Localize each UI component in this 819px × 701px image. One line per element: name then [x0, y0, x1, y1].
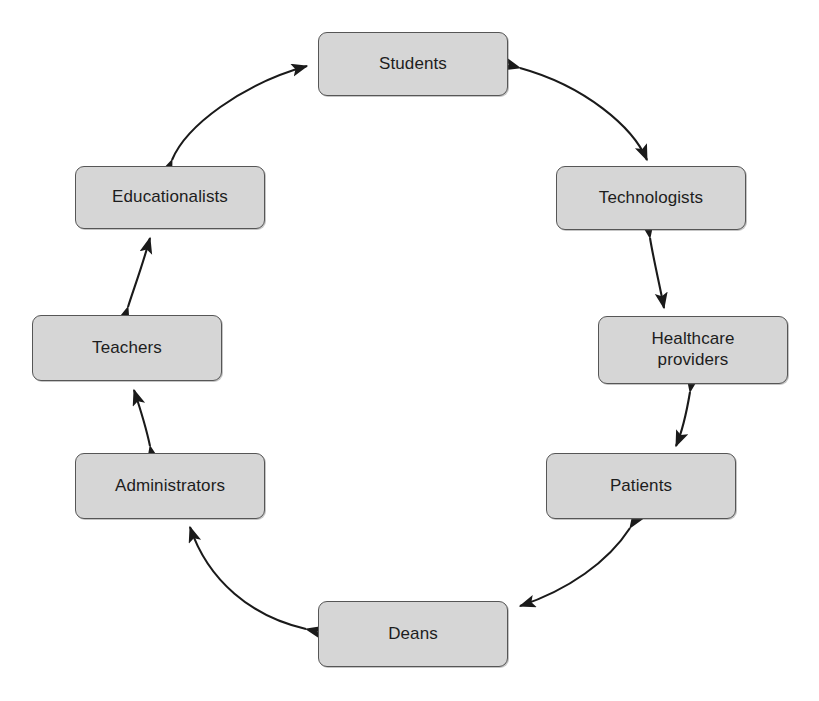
connector-students-technologists — [520, 68, 647, 160]
node-patients[interactable]: Patients — [546, 453, 736, 519]
node-label-healthcare-providers: Healthcare providers — [645, 329, 740, 370]
node-students[interactable]: Students — [318, 32, 508, 96]
connector-technologists-healthcare-providers — [650, 238, 664, 308]
connector-administrators-teachers — [134, 390, 150, 446]
node-label-patients: Patients — [604, 476, 678, 497]
node-label-administrators: Administrators — [109, 476, 231, 497]
connector-educationalists-students — [172, 66, 307, 160]
node-healthcare-providers[interactable]: Healthcare providers — [598, 316, 788, 384]
node-deans[interactable]: Deans — [318, 601, 508, 667]
connector-teachers-educationalists — [128, 238, 150, 307]
node-administrators[interactable]: Administrators — [75, 453, 265, 519]
node-label-educationalists: Educationalists — [106, 187, 234, 208]
node-educationalists[interactable]: Educationalists — [75, 166, 265, 229]
node-label-students: Students — [373, 54, 453, 75]
connector-patients-deans — [520, 528, 630, 606]
node-label-technologists: Technologists — [593, 188, 709, 209]
node-label-deans: Deans — [382, 624, 444, 645]
node-label-teachers: Teachers — [86, 338, 168, 359]
connector-deans-administrators — [190, 527, 306, 629]
connector-healthcare-providers-patients — [676, 392, 690, 446]
node-technologists[interactable]: Technologists — [556, 166, 746, 230]
diagram-canvas: Students Technologists Healthcare provid… — [0, 0, 819, 701]
node-teachers[interactable]: Teachers — [32, 315, 222, 381]
